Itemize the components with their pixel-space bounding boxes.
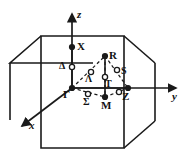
marker-r xyxy=(102,53,108,59)
m-point-label: M xyxy=(101,100,111,111)
lambda-line-label: Λ xyxy=(85,74,92,84)
sigma-line-label: Σ xyxy=(83,97,90,107)
gamma-point-label: Γ xyxy=(63,89,70,100)
y-axis-label: y xyxy=(172,91,177,102)
marker-x xyxy=(69,44,75,50)
r-point-label: R xyxy=(109,50,117,61)
cube-outline xyxy=(10,36,155,148)
t-line-label: T xyxy=(105,79,112,89)
delta-line-label: Δ xyxy=(59,61,65,71)
z-axis-label: z xyxy=(77,9,81,20)
x-point-label: X xyxy=(77,41,85,52)
x-axis-label: x xyxy=(29,120,35,131)
coordinate-axes xyxy=(22,14,176,126)
brillouin-zone-diagram xyxy=(0,0,189,161)
brillouin-zone-figure: z y x Γ X R Z M Δ Λ Σ S T xyxy=(0,0,189,161)
cube-edge-top-right xyxy=(124,36,155,63)
symmetry-line-markers xyxy=(69,64,121,96)
z-point-label: Z xyxy=(122,91,129,102)
cube-edge-bottom-right xyxy=(124,121,155,148)
s-line-label: S xyxy=(121,66,127,76)
marker-s xyxy=(114,67,119,72)
marker-delta xyxy=(69,64,74,69)
marker-a xyxy=(116,89,121,94)
